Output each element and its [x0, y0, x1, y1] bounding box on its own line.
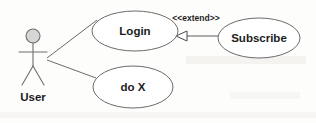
- association-user-do-x: [47, 60, 96, 78]
- actor-user[interactable]: User: [19, 29, 47, 103]
- use-case-subscribe[interactable]: Subscribe: [218, 18, 300, 58]
- use-case-do-x-label: do X: [121, 81, 146, 93]
- use-case-login-label: Login: [119, 25, 150, 37]
- actor-head-icon: [26, 29, 40, 43]
- use-case-login[interactable]: Login: [92, 11, 178, 51]
- actor-user-label: User: [20, 91, 46, 103]
- actor-leg-left-icon: [22, 66, 33, 85]
- use-case-subscribe-label: Subscribe: [231, 32, 287, 44]
- use-case-do-x[interactable]: do X: [93, 66, 173, 108]
- actor-leg-right-icon: [33, 66, 44, 85]
- use-case-diagram: Login do X Subscribe <<extend>> User: [0, 0, 316, 123]
- stereotype-label-extend: <<extend>>: [172, 13, 219, 23]
- association-user-login: [47, 20, 97, 58]
